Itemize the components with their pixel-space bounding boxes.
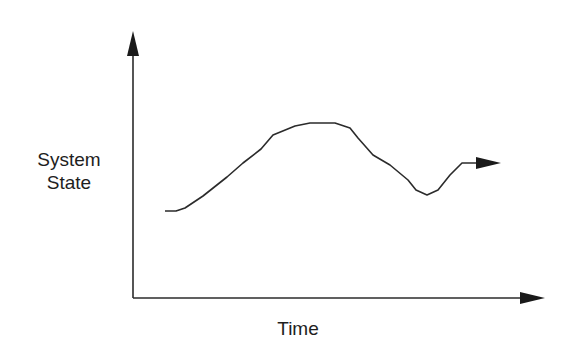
- y-axis-label: System State: [24, 148, 114, 194]
- state-trajectory-curve: [165, 123, 478, 211]
- y-axis-label-line1: System: [24, 148, 114, 171]
- y-axis-label-line2: State: [24, 171, 114, 194]
- y-axis-arrowhead-icon: [127, 31, 139, 56]
- x-axis-arrowhead-icon: [520, 292, 545, 304]
- system-state-diagram: System State Time: [0, 0, 575, 363]
- trajectory-arrowhead-icon: [476, 157, 501, 169]
- x-axis-label: Time: [258, 317, 338, 340]
